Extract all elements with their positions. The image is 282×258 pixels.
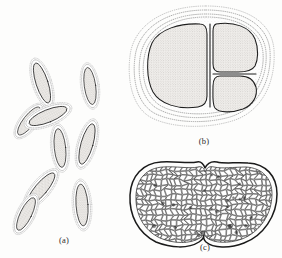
panel-b-label: (b) (199, 136, 210, 146)
panel-c-label: (c) (200, 242, 210, 252)
figure-container: (a) (b) (0, 0, 282, 258)
figure-canvas: (a) (b) (0, 0, 282, 258)
panel-a-label: (a) (59, 235, 69, 245)
